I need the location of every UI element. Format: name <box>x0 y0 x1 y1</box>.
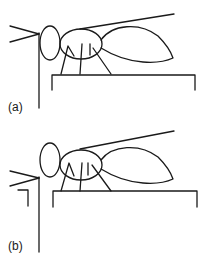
antenna-lines <box>10 171 39 186</box>
panel-b: (b) <box>8 131 197 253</box>
fly-head <box>40 26 60 60</box>
antenna-upper <box>10 171 39 178</box>
surface-table <box>52 75 195 90</box>
panel-a: (a) <box>8 14 195 114</box>
wing-leading-edge <box>80 131 174 149</box>
middle-leg <box>80 163 82 191</box>
surface-table <box>53 191 197 207</box>
antenna-lower <box>10 178 39 186</box>
figure-canvas: (a) (b) <box>0 0 208 264</box>
fly-head <box>40 143 60 177</box>
front-leg <box>61 46 74 74</box>
panel-label-a: (a) <box>8 100 23 114</box>
fly-wing <box>101 27 173 63</box>
small-ledge <box>18 190 28 206</box>
panel-label-b: (b) <box>8 239 23 253</box>
antenna-upper <box>10 26 39 34</box>
antenna-lines <box>10 26 39 42</box>
antenna-lower <box>10 34 39 42</box>
fly-wing <box>101 148 173 184</box>
